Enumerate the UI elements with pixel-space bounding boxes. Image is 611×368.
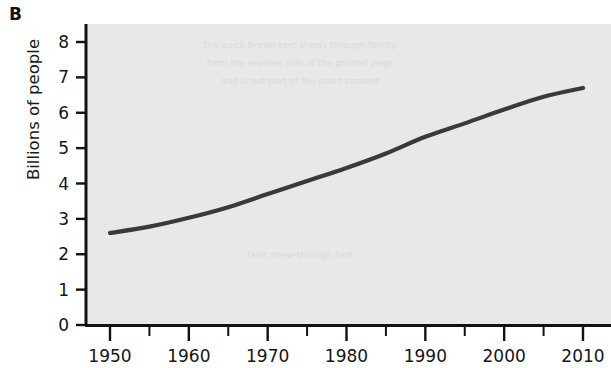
y-tick-label: 2 bbox=[58, 244, 69, 264]
plot-background bbox=[85, 24, 611, 325]
y-tick-label: 7 bbox=[58, 67, 69, 87]
x-tick-label: 1990 bbox=[404, 346, 447, 366]
y-axis-ticks: 012345678 bbox=[58, 32, 87, 335]
showthrough-line-2: from the reverse side of the printed pag… bbox=[207, 58, 394, 68]
y-tick-label: 1 bbox=[58, 280, 69, 300]
x-tick-label: 2010 bbox=[561, 346, 604, 366]
y-tick-label: 8 bbox=[58, 32, 69, 52]
showthrough-line-1: the quick brown text shows through faint… bbox=[203, 40, 397, 50]
x-tick-label: 1960 bbox=[167, 346, 210, 366]
figure-panel-b: B Billions of people the quick brown tex… bbox=[0, 0, 611, 368]
plot-container: the quick brown text shows through faint… bbox=[0, 0, 611, 368]
x-tick-label: 1970 bbox=[246, 346, 289, 366]
x-tick-label: 2000 bbox=[483, 346, 526, 366]
y-tick-label: 3 bbox=[58, 209, 69, 229]
y-tick-label: 4 bbox=[58, 174, 69, 194]
x-axis-ticks: 1950196019701980199020002010 bbox=[88, 326, 604, 366]
showthrough-line-3: and is not part of the chart content bbox=[221, 76, 380, 86]
y-tick-label: 0 bbox=[58, 315, 69, 335]
x-tick-label: 1980 bbox=[325, 346, 368, 366]
y-tick-label: 5 bbox=[58, 138, 69, 158]
showthrough-line-4: faint show-through text bbox=[247, 250, 353, 260]
x-tick-label: 1950 bbox=[88, 346, 131, 366]
line-chart: the quick brown text shows through faint… bbox=[0, 0, 611, 368]
y-tick-label: 6 bbox=[58, 103, 69, 123]
